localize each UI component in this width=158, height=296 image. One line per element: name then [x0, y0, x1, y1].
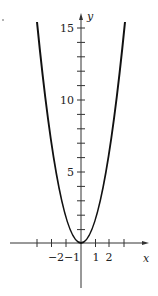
y-axis-arrow	[79, 13, 83, 20]
stray-dot	[2, 19, 4, 21]
x-axis-arrow	[142, 241, 149, 245]
x-axis-label: x	[143, 252, 150, 265]
y-tick-label-10: 10	[60, 94, 74, 107]
y-tick-label-5: 5	[67, 166, 74, 179]
y-tick-label-15: 15	[60, 22, 74, 35]
y-axis-label: y	[86, 10, 94, 23]
x-tick-label-2: 2	[106, 251, 113, 264]
x-tick-label-1: 1	[93, 251, 100, 264]
parabola-chart: 15 10 5 −2 −1 1 2 y x	[0, 0, 158, 296]
x-tick-label-neg2: −2	[48, 251, 64, 264]
x-tick-label-neg1: −1	[64, 251, 80, 264]
